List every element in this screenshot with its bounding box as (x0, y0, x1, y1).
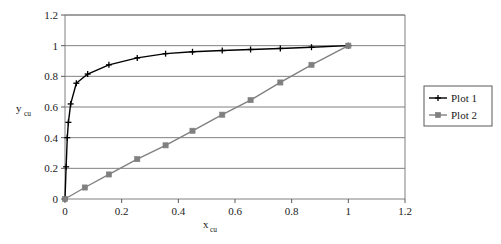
series-2-marker-7 (248, 98, 253, 103)
equilibrium-chart: 00.20.40.60.811.2 00.20.40.60.811.2 y cu… (0, 0, 501, 244)
x-tick-label-4: 0.8 (285, 205, 299, 217)
legend-label-2: Plot 2 (451, 109, 477, 121)
y-tick-label-6: 1.2 (44, 9, 58, 21)
x-tick-label-5: 1 (346, 205, 352, 217)
series-2-marker-2 (106, 172, 111, 177)
series-2-marker-4 (163, 143, 168, 148)
series-2-marker-1 (82, 185, 87, 190)
series-2-marker-6 (220, 112, 225, 117)
legend: Plot 1Plot 2 (424, 86, 492, 126)
x-tick-label-2: 0.4 (171, 205, 185, 217)
y-axis-title-base: y (16, 102, 22, 114)
series-2-marker-0 (62, 196, 67, 201)
x-axis-tick-labels: 00.20.40.60.811.2 (62, 205, 412, 217)
y-axis-tick-labels: 00.20.40.60.811.2 (44, 9, 58, 205)
y-tick-label-5: 1 (53, 40, 59, 52)
series-2-marker-9 (309, 62, 314, 67)
x-tick-label-3: 0.6 (228, 205, 242, 217)
x-axis-title-subscript: cu (210, 225, 217, 234)
y-tick-label-3: 0.6 (44, 101, 58, 113)
y-tick-label-2: 0.4 (44, 132, 58, 144)
y-axis-title-subscript: cu (24, 109, 31, 118)
chart-container: 00.20.40.60.811.2 00.20.40.60.811.2 y cu… (0, 0, 501, 244)
series-2-marker-8 (278, 80, 283, 85)
x-tick-label-1: 0.2 (115, 205, 129, 217)
x-axis-ticks (65, 199, 405, 203)
x-tick-label-0: 0 (62, 205, 68, 217)
series-2-marker-10 (346, 43, 351, 48)
y-axis-title: y cu (16, 102, 31, 118)
legend-swatch-2-marker-0 (435, 112, 440, 117)
y-axis-ticks (61, 15, 65, 199)
series-2-marker-3 (135, 157, 140, 162)
x-tick-label-6: 1.2 (398, 205, 412, 217)
y-tick-label-1: 0.2 (44, 162, 58, 174)
x-axis-title-base: x (203, 218, 209, 230)
legend-label-1: Plot 1 (451, 92, 477, 104)
y-tick-label-4: 0.8 (44, 70, 58, 82)
x-axis-title: x cu (203, 218, 217, 234)
y-tick-label-0: 0 (53, 193, 59, 205)
series-2-marker-5 (190, 128, 195, 133)
